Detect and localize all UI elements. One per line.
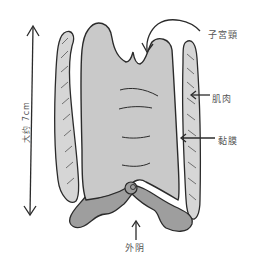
left-muscle-wall [55,31,79,202]
label-vulva: 外阴 [125,244,145,253]
label-length: 大约 7cm [23,101,31,143]
vaginal-canal [81,23,179,200]
cervical-os [125,182,137,194]
label-cervix: 子宮頸 [208,31,238,40]
label-mucosa: 黏膜 [218,137,238,146]
label-muscle: 肌肉 [212,95,232,104]
right-muscle-wall [183,41,201,219]
